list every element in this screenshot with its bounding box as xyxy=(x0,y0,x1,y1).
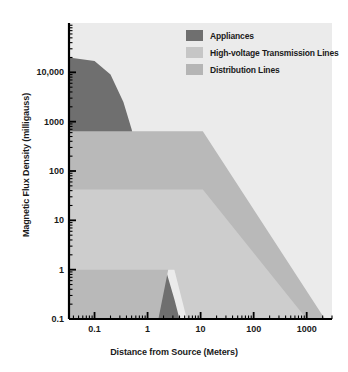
x-tick-label: 1000 xyxy=(297,324,317,334)
y-tick-label: 0.1 xyxy=(0,314,64,324)
x-tick-label: 10 xyxy=(196,324,206,334)
y-axis-title: Magnetic Flux Density (milligauss) xyxy=(21,35,31,295)
legend-swatch-icon xyxy=(186,64,203,75)
legend-item[interactable]: High-voltage Transmission Lines xyxy=(186,45,339,60)
legend-item-label: Distribution Lines xyxy=(210,65,280,75)
chart-figure: 0.1110100100010,0000.11101001000 Distanc… xyxy=(0,0,348,372)
legend-item[interactable]: Appliances xyxy=(186,28,339,43)
legend-item-label: Appliances xyxy=(210,31,254,41)
x-tick-label: 1 xyxy=(145,324,150,334)
x-tick-label: 100 xyxy=(246,324,261,334)
y-tick-label: 10 xyxy=(0,215,64,225)
legend-item[interactable]: Distribution Lines xyxy=(186,62,339,77)
legend-item-label: High-voltage Transmission Lines xyxy=(210,48,339,58)
y-tick-label: 10,000 xyxy=(0,67,64,77)
x-tick-label: 0.1 xyxy=(88,324,101,334)
x-axis-title: Distance from Source (Meters) xyxy=(0,347,348,357)
chart-legend: AppliancesHigh-voltage Transmission Line… xyxy=(186,28,339,79)
y-tick-label: 1000 xyxy=(0,117,64,127)
y-tick-label: 100 xyxy=(0,166,64,176)
legend-swatch-icon xyxy=(186,30,203,41)
legend-swatch-icon xyxy=(186,47,203,58)
y-tick-label: 1 xyxy=(0,265,64,275)
